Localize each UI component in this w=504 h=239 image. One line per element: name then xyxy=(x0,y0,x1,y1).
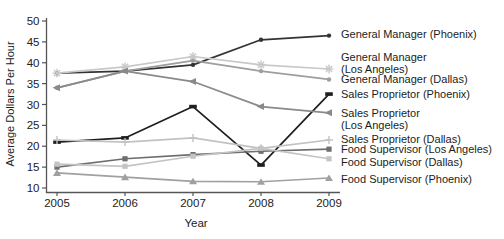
y-axis-ticks: 101520253035404550 xyxy=(27,15,47,194)
y-axis-title: Average Dollars Per Hour xyxy=(4,41,16,166)
marker-dot xyxy=(191,58,195,62)
marker-tri-left xyxy=(257,103,265,110)
y-tick-label: 40 xyxy=(27,57,40,69)
marker-dot xyxy=(259,38,263,42)
marker-plus xyxy=(189,134,197,142)
marker-square xyxy=(258,146,263,151)
marker-asterisk xyxy=(325,65,334,74)
series-label-general-manager-dallas: General Manager (Dallas) xyxy=(341,73,468,85)
series-label-general-manager-phoenix: General Manager (Phoenix) xyxy=(341,28,477,40)
y-tick-label: 20 xyxy=(27,140,40,152)
series-label-sales-proprietor-los-angeles: Sales Proprietor(Los Angeles) xyxy=(341,107,420,131)
marker-square xyxy=(326,156,331,161)
series-label-text: Sales Proprietor (Phoenix) xyxy=(341,88,470,100)
y-tick-label: 35 xyxy=(27,78,40,90)
x-tick-label: 2005 xyxy=(44,197,70,209)
marker-asterisk xyxy=(257,60,266,69)
x-tick-label: 2009 xyxy=(316,197,342,209)
y-tick-label: 45 xyxy=(27,36,40,48)
x-axis-ticks: 20052006200720082009 xyxy=(44,193,342,210)
line-chart: 10152025303540455020052006200720082009Ye… xyxy=(0,0,504,239)
series-label-food-supervisor-phoenix: Food Supervisor (Phoenix) xyxy=(341,173,472,185)
series-food-supervisor-phoenix xyxy=(53,169,333,184)
series-label-text: General Manager (Phoenix) xyxy=(341,28,477,40)
marker-dash xyxy=(189,105,197,109)
marker-dot xyxy=(327,33,331,37)
marker-dot xyxy=(259,69,263,73)
marker-tri-left xyxy=(325,109,333,116)
marker-tri-left xyxy=(189,78,197,85)
series-label-sales-proprietor-phoenix: Sales Proprietor (Phoenix) xyxy=(341,88,470,100)
series-label-text: (Los Angeles) xyxy=(341,119,408,131)
series-label-text: Sales Proprietor xyxy=(341,107,420,119)
marker-asterisk xyxy=(53,69,62,78)
marker-dash xyxy=(257,163,265,167)
marker-tri-left xyxy=(53,84,61,91)
marker-square xyxy=(122,156,127,161)
x-tick-label: 2008 xyxy=(248,197,274,209)
marker-square xyxy=(122,164,127,169)
x-axis-title: Year xyxy=(184,217,207,229)
marker-dot xyxy=(191,63,195,67)
y-tick-label: 25 xyxy=(27,119,40,131)
series-label-food-supervisor-dallas: Food Supervisor (Dallas) xyxy=(341,156,463,168)
x-tick-label: 2006 xyxy=(112,197,138,209)
marker-square xyxy=(326,147,331,152)
marker-plus xyxy=(325,136,333,144)
y-tick-label: 10 xyxy=(27,182,40,194)
series-label-text: General Manager (Dallas) xyxy=(341,73,468,85)
series-label-text: Food Supervisor (Dallas) xyxy=(341,156,463,168)
y-tick-label: 30 xyxy=(27,99,40,111)
x-tick-label: 2007 xyxy=(180,197,206,209)
series-label-general-manager-los-angeles: General Manager(Los Angeles) xyxy=(341,51,427,75)
series-label-text: Food Supervisor (Phoenix) xyxy=(341,173,472,185)
series-label-text: General Manager xyxy=(341,51,427,63)
marker-square xyxy=(54,162,59,167)
chart-figure: 10152025303540455020052006200720082009Ye… xyxy=(0,0,504,239)
y-tick-label: 50 xyxy=(27,15,40,27)
series-food-supervisor-dallas xyxy=(54,146,331,169)
series-label-text: Food Supervisor (Los Angeles) xyxy=(341,143,492,155)
marker-dash xyxy=(325,92,333,96)
series-label-food-supervisor-los-angeles: Food Supervisor (Los Angeles) xyxy=(341,143,492,155)
marker-square xyxy=(190,154,195,159)
marker-dot xyxy=(327,77,331,81)
y-tick-label: 15 xyxy=(27,161,40,173)
